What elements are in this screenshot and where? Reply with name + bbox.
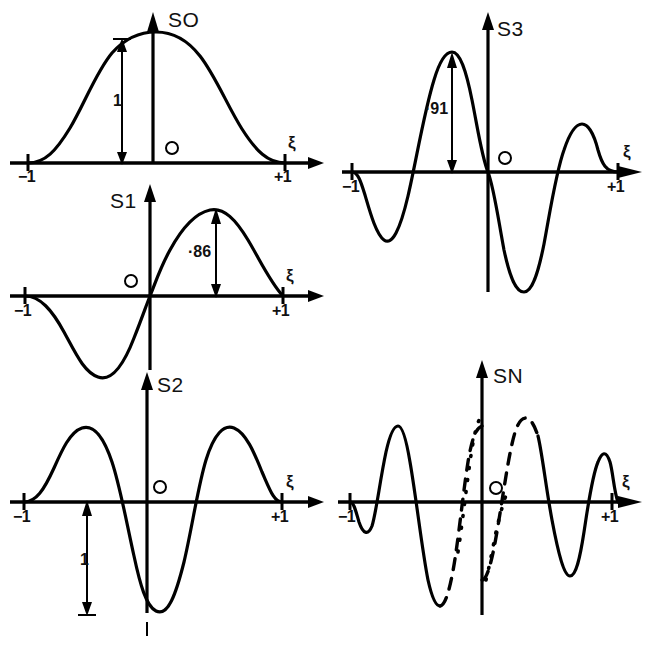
curve-sn-dashed-left <box>440 426 482 606</box>
tick-label-right-s1: +1 <box>272 302 289 320</box>
tick-label-left-s3: −1 <box>342 178 359 196</box>
x-axis-arrowhead-s2 <box>308 496 324 508</box>
tick-label-left-sn: −1 <box>338 508 355 526</box>
panel-s0-plot <box>0 0 330 185</box>
origin-circle-s0 <box>166 142 178 154</box>
amplitude-label-s0: 1 <box>113 92 122 110</box>
amplitude-label-s1: ·86 <box>188 243 211 261</box>
curve-sn-right <box>538 436 618 576</box>
y-axis-arrowhead-s2 <box>141 372 153 390</box>
axis-symbol-s2: ξ <box>286 472 294 492</box>
panel-label-s0: SO <box>168 8 199 32</box>
panel-s3: S3 −1 +1 ξ ·91 <box>330 0 657 320</box>
panel-label-s2: S2 <box>157 373 184 397</box>
y-axis-arrowhead-s1 <box>144 184 156 202</box>
curve-s2 <box>24 427 282 612</box>
x-axis-arrowhead-sn <box>618 496 642 508</box>
x-axis-arrowhead-s0 <box>308 157 324 169</box>
panel-label-s3: S3 <box>497 17 524 41</box>
curve-sn-dotted-left <box>458 418 480 552</box>
origin-circle-sn <box>490 482 502 494</box>
tick-label-right-s2: +1 <box>271 508 288 526</box>
panel-sn: SN −1 +1 ξ <box>330 340 657 649</box>
y-axis-arrowhead-s0 <box>147 12 159 32</box>
panel-label-sn: SN <box>493 364 523 388</box>
origin-circle-s2 <box>154 481 166 493</box>
axis-symbol-sn: ξ <box>622 472 630 492</box>
origin-circle-s3 <box>499 152 511 164</box>
axis-symbol-s0: ξ <box>288 133 296 153</box>
panel-s1-plot <box>0 180 330 380</box>
tick-label-right-s3: +1 <box>607 178 624 196</box>
tick-label-left-s2: −1 <box>13 508 30 526</box>
origin-circle-s1 <box>125 275 137 287</box>
amplitude-label-s2: 1 <box>80 551 89 569</box>
x-axis-arrowhead-s1 <box>308 290 324 302</box>
curve-sn-left <box>350 426 440 606</box>
axis-symbol-s1: ξ <box>286 266 294 286</box>
curve-s1 <box>25 210 283 378</box>
tick-label-right-sn: +1 <box>601 508 618 526</box>
y-axis-arrowhead-s3 <box>482 12 494 30</box>
amplitude-arrow-bottom-s2 <box>82 602 92 616</box>
panel-s3-plot <box>330 0 657 320</box>
figure-prolate-spheroidal-wave-functions: SO −1 +1 ξ 1 S1 −1 +1 ξ ·86 <box>0 0 657 649</box>
axis-symbol-s3: ξ <box>623 142 631 162</box>
curve-s0 <box>28 32 285 163</box>
panel-label-s1: S1 <box>110 189 137 213</box>
panel-s2: S2 −1 +1 ξ 1 <box>0 370 330 649</box>
panel-s0: SO −1 +1 ξ 1 <box>0 0 330 185</box>
amplitude-label-s3: ·91 <box>425 100 448 118</box>
y-axis-arrowhead-sn <box>476 360 488 378</box>
panel-s1: S1 −1 +1 ξ ·86 <box>0 180 330 380</box>
tick-label-left-s1: −1 <box>14 302 31 320</box>
x-axis-arrowhead-s3 <box>618 166 642 178</box>
